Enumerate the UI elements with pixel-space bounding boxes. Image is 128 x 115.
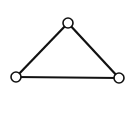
node-right: [114, 73, 124, 83]
triangle-graph: [0, 0, 128, 115]
nodes: [11, 18, 124, 83]
edge-left-right: [16, 77, 119, 78]
node-top: [63, 18, 73, 28]
edges: [16, 23, 119, 78]
edge-top-left: [16, 23, 68, 77]
node-left: [11, 72, 21, 82]
edge-top-right: [68, 23, 119, 78]
